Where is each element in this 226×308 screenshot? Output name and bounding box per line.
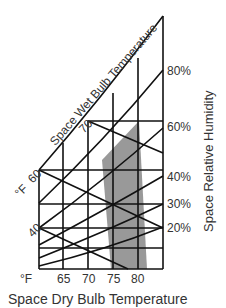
x-axis-title: Space Dry Bulb Temperature [8, 291, 188, 307]
x-tick-80: 80 [131, 273, 144, 285]
rh-axis-title: Space Relative Humidity [201, 90, 216, 232]
rh-label-30: 30% [167, 198, 191, 210]
rh-label-60: 60% [167, 121, 191, 133]
rh-label-20: 20% [167, 222, 191, 234]
psychrometric-chart [0, 0, 226, 308]
x-axis-unit: °F [20, 273, 32, 285]
x-tick-75: 75 [107, 273, 120, 285]
rh-label-80: 80% [167, 65, 191, 77]
x-tick-65: 65 [57, 273, 70, 285]
rh-label-40: 40% [167, 171, 191, 183]
x-tick-70: 70 [82, 273, 95, 285]
